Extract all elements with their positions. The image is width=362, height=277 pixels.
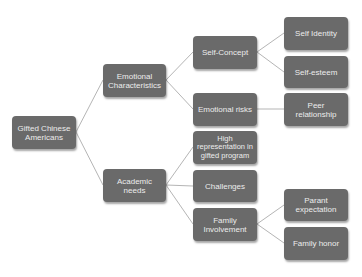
node-emotional-characteristics: Emotional Characteristics bbox=[103, 64, 166, 97]
node-family-honor: Family honor bbox=[284, 227, 348, 260]
node-self-identity: Self Identity bbox=[284, 17, 348, 50]
node-gifted-chinese-americans: Gifted Chinese Americans bbox=[12, 116, 76, 149]
node-label: Emotional risks bbox=[198, 105, 252, 114]
node-challenges: Challenges bbox=[193, 170, 257, 202]
node-emotional-risks: Emotional risks bbox=[193, 93, 257, 126]
node-label: Peer relationship bbox=[287, 101, 345, 119]
node-label: Gifted Chinese Americans bbox=[15, 124, 73, 142]
node-label: Family Involvement bbox=[196, 216, 254, 234]
link-academic-challenges bbox=[166, 185, 193, 186]
node-label: Parant expectation bbox=[287, 196, 345, 214]
link-academic-highrep bbox=[166, 147, 193, 185]
node-label: Family honor bbox=[293, 239, 339, 248]
link-root-emotional bbox=[76, 80, 103, 132]
node-high-representation: High representation in gifted program bbox=[193, 131, 257, 164]
node-label: Academic needs bbox=[106, 177, 163, 195]
link-academic-family bbox=[166, 185, 193, 224]
link-emotional-selfconcept bbox=[166, 52, 193, 80]
node-self-concept: Self-Concept bbox=[193, 36, 257, 69]
node-academic-needs: Academic needs bbox=[103, 169, 166, 202]
link-family-parent bbox=[257, 205, 284, 224]
node-label: High representation in gifted program bbox=[196, 135, 254, 161]
node-family-involvement: Family Involvement bbox=[193, 208, 257, 241]
node-label: Emotional Characteristics bbox=[106, 72, 163, 90]
link-selfconcept-identity bbox=[257, 33, 284, 52]
link-emotional-risks bbox=[166, 80, 193, 109]
node-label: Challenges bbox=[205, 182, 245, 191]
link-selfconcept-esteem bbox=[257, 52, 284, 72]
node-parent-expectation: Parant expectation bbox=[284, 189, 348, 221]
node-self-esteem: Self-esteem bbox=[284, 56, 348, 88]
node-label: Self-esteem bbox=[295, 68, 338, 77]
link-root-academic bbox=[76, 132, 103, 185]
link-family-honor bbox=[257, 224, 284, 243]
node-label: Self Identity bbox=[295, 29, 337, 38]
node-label: Self-Concept bbox=[202, 48, 248, 57]
node-peer-relationship: Peer relationship bbox=[284, 93, 348, 126]
